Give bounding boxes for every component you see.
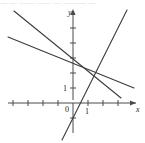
coordinate-plane-plot: y x 0 1 1 (0, 0, 145, 143)
y-axis-label: y (67, 8, 72, 17)
y-unit-tick-label: 1 (63, 84, 67, 93)
series-line-3 (62, 10, 127, 140)
axes-group: y x 0 1 1 (8, 8, 140, 133)
series-group (8, 10, 134, 140)
x-axis-label: x (135, 105, 140, 114)
origin-tick-label: 0 (65, 105, 69, 114)
graph-figure: — — —— —— — ——— — (0, 0, 145, 143)
series-line-2 (8, 37, 134, 88)
x-unit-tick-label: 1 (85, 107, 89, 116)
